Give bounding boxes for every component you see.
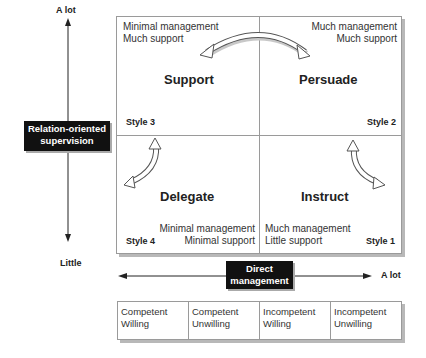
employee-type-cell: Competent Unwilling xyxy=(189,302,260,339)
horizontal-axis-right-label: A lot xyxy=(381,270,401,280)
curved-double-arrow-icon xyxy=(347,140,385,189)
employee-type-cell: Incompetent Willing xyxy=(260,302,331,339)
curved-double-arrow-icon xyxy=(124,138,161,188)
employee-type-cell: Incompetent Unwilling xyxy=(331,302,401,339)
direct-management-label: Direct management xyxy=(226,261,293,289)
employee-type-cell: Competent Willing xyxy=(118,302,189,339)
curved-double-arrow-icon xyxy=(200,35,310,59)
employee-types-table: Competent Willing Competent Unwilling In… xyxy=(117,301,402,340)
